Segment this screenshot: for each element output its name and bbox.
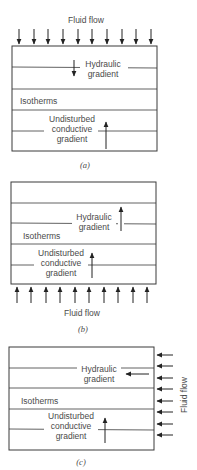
svg-text:conductive: conductive <box>51 421 92 431</box>
hydraulic-gradient-label-a: Hydraulic <box>85 59 121 69</box>
fluid-flow-arrows-left <box>157 355 173 435</box>
hydraulic-gradient-label-b: Hydraulic <box>76 212 112 222</box>
conductive-gradient-label-a: Undisturbed <box>49 114 95 124</box>
fluid-flow-diagram: Fluid flow Hydraulic gradient Isotherms … <box>0 0 197 470</box>
svg-text:gradient: gradient <box>46 268 77 278</box>
fluid-flow-label-a: Fluid flow <box>68 15 105 25</box>
caption-c: (c) <box>76 457 86 467</box>
svg-text:gradient: gradient <box>88 69 119 79</box>
conductive-gradient-label-b: Undisturbed <box>38 248 84 258</box>
svg-text:gradient: gradient <box>56 431 87 441</box>
isotherms-label-a: Isotherms <box>20 96 57 106</box>
fluid-flow-arrows-down <box>19 29 151 44</box>
isotherms-label-c: Isotherms <box>21 396 58 406</box>
caption-a: (a) <box>80 160 90 170</box>
panel-a: Fluid flow Hydraulic gradient Isotherms … <box>12 15 157 170</box>
hydraulic-gradient-label-c: Hydraulic <box>81 364 117 374</box>
svg-text:gradient: gradient <box>57 134 88 144</box>
panel-b: Hydraulic gradient Isotherms Undisturbed… <box>11 182 156 334</box>
conductive-gradient-label-c: Undisturbed <box>48 411 94 421</box>
svg-text:conductive: conductive <box>41 258 82 268</box>
fluid-flow-label-c: Fluid flow <box>179 376 189 413</box>
isotherms-label-b: Isotherms <box>23 231 60 241</box>
fluid-flow-arrows-up <box>17 287 147 303</box>
fluid-flow-label-b: Fluid flow <box>64 308 101 318</box>
svg-text:gradient: gradient <box>79 222 110 232</box>
panel-c: Hydraulic gradient Isotherms Undisturbed… <box>9 347 189 467</box>
svg-text:gradient: gradient <box>84 374 115 384</box>
svg-text:conductive: conductive <box>52 124 93 134</box>
caption-b: (b) <box>78 324 88 334</box>
